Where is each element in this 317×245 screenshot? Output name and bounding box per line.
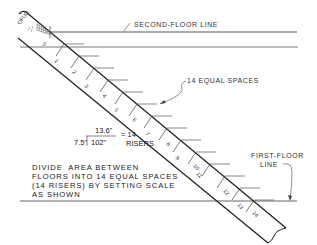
stair-layout-diagram: OFUQ 0 1 2 3 4 5 6 7 8 9 10 11 12 13 14 [0,0,317,245]
svg-text:8: 8 [165,141,172,147]
first-floor-label-line1: FIRST-FLOOR [251,152,304,159]
scale-ruler [18,11,286,243]
svg-text:13: 13 [236,202,245,211]
svg-text:2: 2 [71,69,78,75]
calc-divisor: 7.5" [74,139,87,147]
second-floor-leader [124,23,130,31]
svg-text:1: 1 [53,58,60,64]
instruction-line-3: (14 RISERS) BY SETTING SCALE [32,181,175,190]
calc-quotient: 13.6" [95,127,112,135]
calc-result: RISERS [126,140,154,148]
svg-text:0: 0 [41,41,48,47]
svg-text:OFUQ: OFUQ [16,9,30,26]
svg-text:11: 11 [195,171,203,179]
svg-text:4: 4 [101,93,108,99]
first-floor-leader [283,164,292,199]
second-floor-label: SECOND-FLOOR LINE [134,21,218,28]
svg-text:3: 3 [83,83,90,89]
svg-text:12: 12 [222,188,231,197]
svg-text:14: 14 [251,210,260,219]
svg-text:6: 6 [131,117,138,123]
calc-equals: = 14 [121,131,136,139]
svg-text:7: 7 [144,131,151,137]
instruction-line-2: FLOORS INTO 14 EQUAL SPACES [32,172,178,181]
first-floor-label-line2: LINE [260,161,278,168]
instruction-line-1: DIVIDE AREA BETWEEN [32,163,139,172]
instruction-line-4: AS SHOWN [32,190,81,199]
svg-text:9: 9 [174,155,181,161]
equal-spaces-label: 14 EQUAL SPACES [187,77,259,84]
svg-text:5: 5 [113,107,120,113]
calc-dividend: 102" [91,139,106,147]
